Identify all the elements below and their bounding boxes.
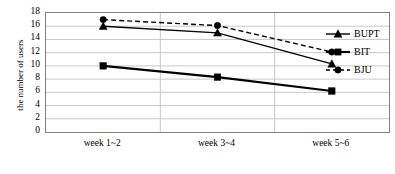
legend-item-bit[interactable]: BIT (325, 43, 391, 61)
triangle-marker (325, 25, 351, 43)
y-tick-label: 12 (20, 47, 40, 57)
chart-legend: BUPTBITBJU (325, 25, 391, 79)
y-tick-label: 4 (20, 100, 40, 110)
y-axis-tick-labels: 024681012141618 (20, 11, 40, 133)
x-axis-tick-labels: week 1~2week 3~4week 5~6 (45, 137, 390, 153)
x-tick-label: week 1~2 (84, 137, 121, 149)
y-tick-label: 6 (20, 87, 40, 97)
circle-marker (325, 61, 351, 79)
line-chart: the number of users 024681012141618 week… (0, 0, 395, 174)
y-tick-label: 14 (20, 34, 40, 44)
data-point-circle-marker (100, 16, 106, 22)
y-tick-label: 2 (20, 113, 40, 123)
legend-label: BIT (354, 43, 370, 61)
y-tick-label: 16 (20, 20, 40, 30)
legend-item-bju[interactable]: BJU (325, 61, 391, 79)
x-tick-label: week 3~4 (198, 137, 235, 149)
legend-label: BJU (354, 61, 372, 79)
legend-item-bupt[interactable]: BUPT (325, 25, 391, 43)
y-tick-label: 0 (20, 126, 40, 136)
legend-label: BUPT (354, 25, 380, 43)
data-point-square-marker (214, 74, 221, 81)
square-marker (325, 43, 351, 61)
data-point-circle-marker (214, 22, 220, 28)
data-point-square-marker (329, 88, 336, 95)
x-tick-label: week 5~6 (312, 137, 349, 149)
data-point-square-marker (100, 63, 107, 70)
y-tick-label: 8 (20, 73, 40, 83)
y-tick-label: 18 (20, 7, 40, 17)
series-bit (100, 63, 335, 95)
y-tick-label: 10 (20, 60, 40, 70)
